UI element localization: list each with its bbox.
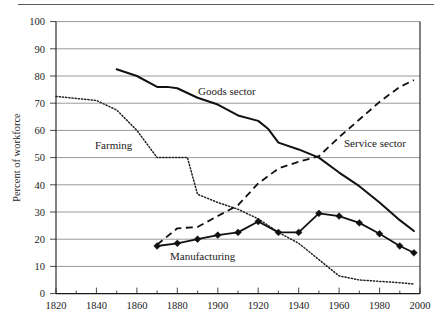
x-tick-1960: 1960: [329, 300, 350, 311]
data-point-marker: [235, 229, 242, 236]
data-point-marker: [356, 219, 363, 226]
y-tick-80: 80: [35, 71, 46, 82]
data-point-marker: [336, 213, 343, 220]
data-point-marker: [275, 229, 282, 236]
x-tick-1920: 1920: [248, 300, 269, 311]
series-annotations: Goods sector Service sector Farming Manu…: [95, 85, 406, 262]
y-tick-100: 100: [29, 16, 45, 27]
series-line-manufacturing: [157, 213, 414, 252]
y-tick-0: 0: [40, 288, 45, 299]
y-tick-30: 30: [35, 207, 46, 218]
x-tick-1940: 1940: [288, 300, 309, 311]
y-axis-title: Percent of workforce: [11, 113, 22, 202]
x-tick-1980: 1980: [369, 300, 390, 311]
x-tick-labels: 1820 1840 1860 1880 1900 1920 1940 1960 …: [46, 300, 431, 311]
line-chart-canvas: 100 90 80 70 60 50 40 30 20 10 0 1820 18…: [0, 0, 444, 326]
y-tick-20: 20: [35, 234, 46, 245]
data-point-marker: [194, 236, 201, 243]
data-point-marker: [255, 218, 262, 225]
x-tick-1880: 1880: [167, 300, 188, 311]
y-tick-labels: 100 90 80 70 60 50 40 30 20 10 0: [29, 16, 45, 299]
series-label-manufacturing: Manufacturing: [170, 250, 236, 262]
series-line-service: [157, 80, 414, 245]
series-label-goods: Goods sector: [198, 85, 256, 97]
y-tickmarks: [50, 22, 56, 294]
x-tickmarks: [56, 288, 420, 294]
y-tick-60: 60: [35, 125, 46, 136]
series-line-goods: [117, 69, 414, 231]
x-tick-2000: 2000: [410, 300, 431, 311]
y-tick-90: 90: [35, 44, 46, 55]
y-tick-50: 50: [35, 152, 46, 163]
y-tick-70: 70: [35, 98, 46, 109]
series-label-farming: Farming: [95, 139, 133, 151]
data-point-marker: [411, 249, 418, 256]
x-tick-1860: 1860: [126, 300, 147, 311]
series-paths: [56, 69, 417, 284]
series-label-service: Service sector: [344, 137, 406, 149]
x-tick-1840: 1840: [86, 300, 107, 311]
data-point-marker: [174, 240, 181, 247]
x-tick-1900: 1900: [207, 300, 228, 311]
x-tick-1820: 1820: [46, 300, 67, 311]
data-point-marker: [214, 232, 221, 239]
chart-figure: 100 90 80 70 60 50 40 30 20 10 0 1820 18…: [0, 0, 444, 326]
y-tick-40: 40: [35, 180, 46, 191]
y-tick-10: 10: [35, 261, 46, 272]
